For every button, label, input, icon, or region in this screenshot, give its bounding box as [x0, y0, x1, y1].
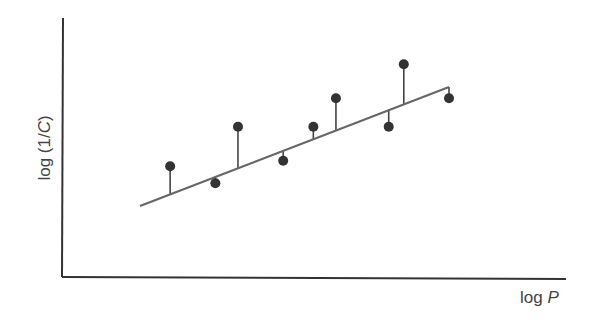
data-point [165, 161, 175, 171]
data-point [444, 93, 454, 103]
data-point [384, 122, 394, 132]
regression-line [140, 87, 449, 206]
x-axis-label: log P [520, 288, 559, 308]
data-point [399, 59, 409, 69]
scatter-plot [0, 0, 599, 324]
data-point [210, 178, 220, 188]
y-axis-label: log (1/C) [35, 115, 55, 180]
data-points [165, 59, 454, 188]
data-point [331, 93, 341, 103]
data-point [233, 122, 243, 132]
y-axis [62, 18, 63, 277]
data-point [308, 122, 318, 132]
x-axis [62, 277, 566, 279]
data-point [278, 156, 288, 166]
